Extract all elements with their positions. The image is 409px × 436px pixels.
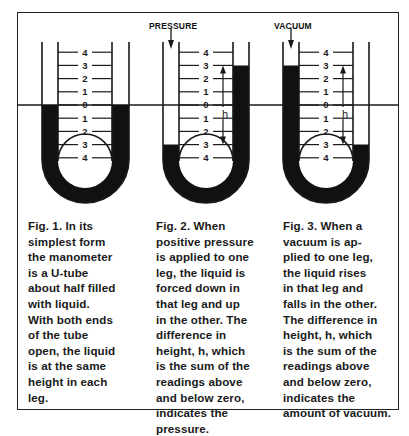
arrow-up-icon [340,65,346,73]
pressure-label: PRESSURE [149,21,197,31]
scale-label: 4 [323,47,329,58]
scale-label: 2 [82,126,87,137]
arrow-up-icon [220,65,226,73]
scale-label: 1 [323,86,329,97]
scale-label: 2 [323,126,328,137]
caption-fig3: Fig. 3. When a vacuum is ap- plied to on… [283,218,403,421]
scale-label: 3 [203,60,208,71]
scale-label: 3 [203,139,208,150]
scale-label: 0 [82,99,87,110]
scale-label: 4 [82,47,88,58]
manometer-fig1: 432101234 [42,42,129,203]
scale-label: 1 [82,86,88,97]
scale-label: 4 [203,47,209,58]
arrow-down-icon [340,137,346,145]
scale-label: 1 [203,113,209,124]
arrow-down-icon [288,40,294,49]
scale-label: 2 [323,73,328,84]
scale-label: 3 [323,139,328,150]
manometer-fig2: 432101234h [163,28,249,203]
scale-label: 3 [323,60,328,71]
scale-label: 3 [82,139,87,150]
scale-label: 3 [82,60,87,71]
arrow-down-icon [220,137,226,145]
arrow-down-icon [168,40,174,49]
scale-label: 0 [323,99,328,110]
caption-fig1: Fig. 1. In its simplest form the manomet… [28,218,146,405]
scale-label: 1 [203,86,209,97]
scale-label: 0 [203,99,208,110]
height-label: h [342,108,348,120]
caption-fig2: Fig. 2. When positive pressure is applie… [156,218,276,436]
scale-label: 2 [82,73,87,84]
scale-label: 2 [203,73,208,84]
vacuum-label: VACUUM [274,21,312,31]
height-label: h [222,108,228,120]
scale-label: 4 [82,152,88,163]
scale-label: 4 [203,152,209,163]
scale-label: 1 [82,113,88,124]
manometer-fig3: 432101234h [283,28,369,203]
scale-label: 4 [323,152,329,163]
scale-label: 1 [323,113,329,124]
scale-label: 2 [203,126,208,137]
